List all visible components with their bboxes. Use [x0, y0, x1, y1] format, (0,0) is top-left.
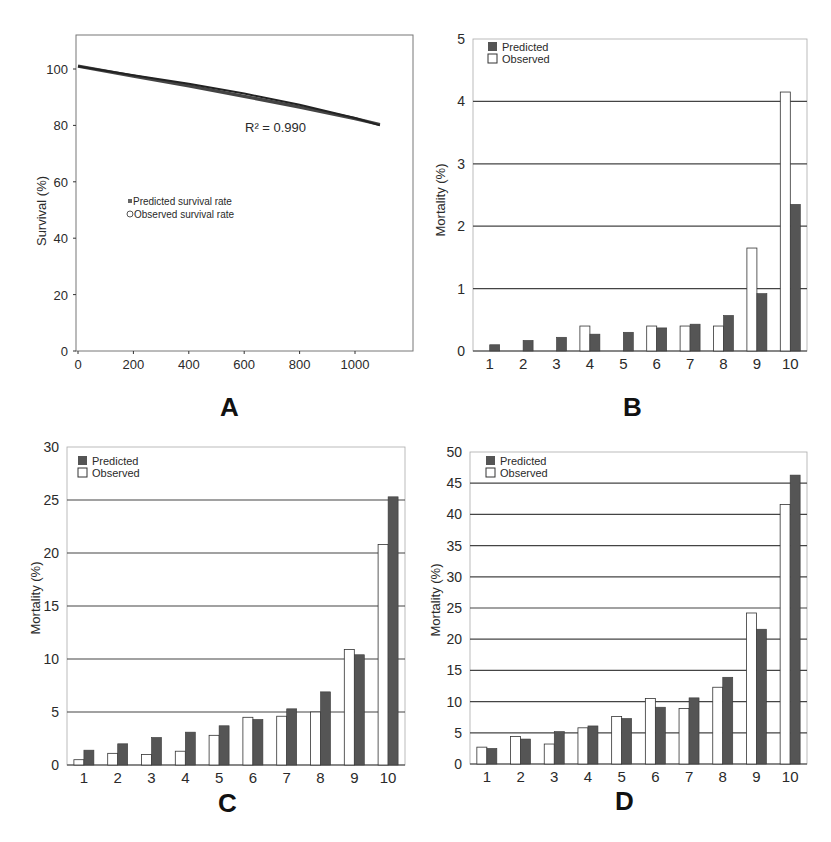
predicted-bar: [757, 294, 767, 351]
survival-line-chart: 02040608010002004006008001000(days)Survi…: [0, 0, 415, 380]
panel-b: 01234512345678910Mortality (%)PredictedO…: [415, 0, 831, 420]
y-tick-label: 30: [446, 569, 462, 585]
predicted-bar: [253, 719, 263, 765]
observed-bar: [511, 737, 521, 764]
observed-bar: [680, 326, 690, 351]
panel-b-label: B: [623, 392, 642, 423]
observed-bar: [578, 728, 588, 764]
y-tick-label: 25: [43, 492, 59, 508]
predicted-bar: [623, 332, 633, 351]
observed-bar: [344, 649, 354, 765]
y-tick-label: 5: [457, 31, 465, 47]
x-tick-label: 3: [552, 355, 560, 372]
mortality-bar-chart-b: 01234512345678910Mortality (%)PredictedO…: [415, 0, 831, 380]
predicted-bar: [152, 737, 162, 765]
x-tick-label: 2: [516, 768, 524, 785]
y-tick-label: 1: [457, 281, 465, 297]
y-tick-label: 10: [446, 694, 462, 710]
observed-bar: [714, 326, 724, 351]
panel-d: 0510152025303540455012345678910Mortality…: [415, 420, 831, 842]
legend-predicted-label: Predicted: [92, 455, 138, 467]
x-tick-label: 1: [80, 769, 88, 786]
predicted-bar: [690, 324, 700, 351]
predicted-bar: [84, 750, 94, 765]
x-tick-label: 4: [586, 355, 594, 372]
observed-bar: [108, 753, 118, 765]
y-tick-label: 20: [43, 545, 59, 561]
y-tick-label: 3: [457, 156, 465, 172]
predicted-bar: [756, 629, 766, 764]
mortality-bar-chart-d: 0510152025303540455012345678910Mortality…: [415, 420, 831, 790]
predicted-bar: [657, 328, 667, 351]
x-tick-label: 6: [651, 768, 659, 785]
predicted-bar: [557, 337, 567, 351]
y-tick-label: 4: [457, 93, 465, 109]
x-tick-label: 7: [283, 769, 291, 786]
legend-predicted-label: Predicted: [500, 455, 546, 467]
y-tick-label: 15: [43, 598, 59, 614]
y-axis-label: Mortality (%): [428, 564, 443, 637]
x-tick-label: 7: [686, 355, 694, 372]
x-tick-label: 5: [215, 769, 223, 786]
legend-predicted-label: Predicted: [502, 41, 548, 53]
panel-c-label: C: [218, 788, 237, 819]
x-tick-label: 3: [550, 768, 558, 785]
y-tick-label: 40: [54, 231, 68, 246]
observed-bar: [209, 735, 219, 765]
y-tick-label: 2: [457, 218, 465, 234]
y-tick-label: 30: [43, 439, 59, 455]
predicted-bar: [590, 334, 600, 351]
y-axis-label: Mortality (%): [28, 562, 43, 635]
y-tick-label: 0: [457, 343, 465, 359]
predicted-bar: [790, 204, 800, 351]
y-tick-label: 45: [446, 475, 462, 491]
x-tick-label: 9: [350, 769, 358, 786]
predicted-bar: [487, 748, 497, 764]
observed-bar: [780, 504, 790, 764]
y-tick-label: 0: [61, 344, 68, 359]
predicted-bar: [689, 698, 699, 764]
predicted-bar: [354, 655, 364, 765]
y-tick-label: 50: [446, 444, 462, 460]
y-tick-label: 80: [54, 118, 68, 133]
observed-bar: [243, 717, 253, 765]
observed-bar: [142, 754, 152, 765]
y-tick-label: 20: [446, 631, 462, 647]
x-tick-label: 6: [653, 355, 661, 372]
x-tick-label: 8: [719, 355, 727, 372]
y-tick-label: 100: [46, 62, 68, 77]
predicted-bar: [490, 345, 500, 351]
predicted-bar: [724, 315, 734, 351]
observed-legend-swatch: [78, 468, 87, 477]
predicted-bar: [321, 692, 331, 765]
predicted-bar: [521, 739, 531, 764]
x-tick-label: 200: [123, 357, 145, 372]
x-tick-label: 0: [74, 357, 81, 372]
y-tick-label: 5: [51, 704, 59, 720]
x-tick-label: 400: [178, 357, 200, 372]
observed-bar: [645, 698, 655, 764]
predicted-bar: [723, 677, 733, 764]
y-tick-label: 20: [54, 288, 68, 303]
x-tick-label: 10: [380, 769, 397, 786]
y-tick-label: 0: [51, 757, 59, 773]
x-tick-label: 2: [519, 355, 527, 372]
x-tick-label: 5: [619, 355, 627, 372]
x-tick-label: 10: [782, 355, 799, 372]
x-tick-label: 6: [249, 769, 257, 786]
predicted-legend-swatch: [78, 456, 87, 465]
x-tick-label: 5: [617, 768, 625, 785]
x-tick-label: 4: [181, 769, 189, 786]
observed-bar: [612, 717, 622, 764]
x-tick-label: 9: [753, 355, 761, 372]
x-tick-label: 1: [486, 355, 494, 372]
x-tick-label: 1000: [341, 357, 370, 372]
panel-d-label: D: [615, 786, 634, 817]
x-tick-label: 7: [685, 768, 693, 785]
legend-observed-label: Observed survival rate: [134, 209, 234, 220]
observed-bar: [747, 248, 757, 351]
x-tick-label: 8: [719, 768, 727, 785]
observed-bar: [74, 760, 84, 765]
panel-a: 02040608010002004006008001000(days)Survi…: [0, 0, 415, 420]
observed-bar: [311, 712, 321, 765]
